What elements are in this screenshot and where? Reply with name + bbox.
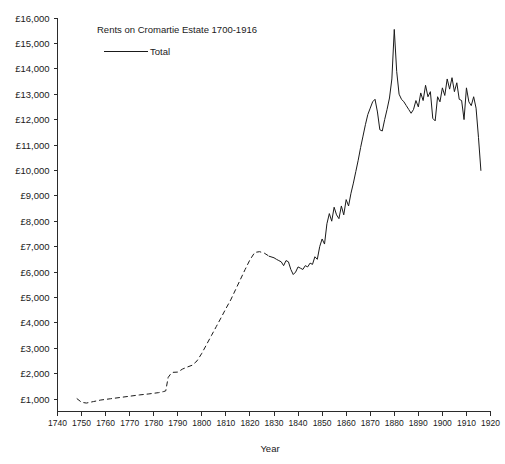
- x-tick-label: 1880: [385, 418, 404, 428]
- x-tick-label: 1910: [457, 418, 476, 428]
- y-tick-label: £8,000: [20, 216, 49, 227]
- y-tick-label: £15,000: [15, 38, 49, 49]
- y-tick-label: £5,000: [20, 292, 49, 303]
- y-tick-label: £12,000: [15, 114, 49, 125]
- x-tick-label: 1850: [313, 418, 332, 428]
- y-tick-label: £14,000: [15, 63, 49, 74]
- x-tick-label: 1750: [72, 418, 91, 428]
- x-tick-label: 1780: [144, 418, 163, 428]
- x-tick-label: 1870: [361, 418, 380, 428]
- x-tick-label: 1830: [265, 418, 284, 428]
- legend: Total: [104, 46, 170, 57]
- series-total-solid-path: [269, 29, 481, 274]
- x-tick-label: 1920: [481, 418, 500, 428]
- y-tick-label: £2,000: [20, 368, 49, 379]
- y-tick-label: £6,000: [20, 267, 49, 278]
- x-tick-label: 1740: [48, 418, 67, 428]
- x-tick-label: 1810: [216, 418, 235, 428]
- y-tick-label: £13,000: [15, 89, 49, 100]
- y-tick-label: £9,000: [20, 190, 49, 201]
- y-axis-ticks: £1,000£2,000£3,000£4,000£5,000£6,000£7,0…: [15, 13, 57, 405]
- x-tick-label: 1900: [433, 418, 452, 428]
- line-chart-svg: £1,000£2,000£3,000£4,000£5,000£6,000£7,0…: [0, 0, 505, 464]
- y-tick-label: £1,000: [20, 394, 49, 405]
- axes-group: [58, 18, 491, 412]
- chart-container: £1,000£2,000£3,000£4,000£5,000£6,000£7,0…: [0, 0, 505, 464]
- x-tick-label: 1790: [168, 418, 187, 428]
- x-tick-label: 1800: [192, 418, 211, 428]
- x-tick-label: 1760: [96, 418, 115, 428]
- series-total: [77, 29, 481, 403]
- x-axis-title: Year: [260, 443, 279, 454]
- y-tick-label: £11,000: [16, 140, 50, 151]
- x-axis-ticks: 1740175017601770178017901800181018201830…: [48, 412, 500, 428]
- x-tick-label: 1860: [337, 418, 356, 428]
- legend-label-total: Total: [150, 46, 170, 57]
- chart-title: Rents on Cromartie Estate 1700-1916: [97, 24, 257, 35]
- y-tick-label: £16,000: [15, 13, 49, 24]
- x-tick-label: 1890: [409, 418, 428, 428]
- x-tick-label: 1840: [289, 418, 308, 428]
- x-tick-label: 1820: [240, 418, 259, 428]
- y-tick-label: £3,000: [20, 343, 49, 354]
- y-tick-label: £10,000: [15, 165, 49, 176]
- x-tick-label: 1770: [120, 418, 139, 428]
- series-total-dashed-path: [77, 252, 269, 403]
- y-tick-label: £7,000: [20, 241, 49, 252]
- y-tick-label: £4,000: [20, 317, 49, 328]
